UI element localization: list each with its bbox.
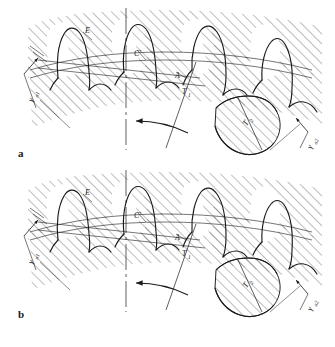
label-point-c-prime-b: C' [134,211,141,220]
panel-letter-a: a [18,147,24,159]
label-point-e-b: E [84,188,90,197]
gear-mesh-drawing: E C' A T 1 T 2 γ a1 γ a2 a [0,0,335,347]
panel-letter-b: b [18,308,24,320]
label-point-a-b: A [174,233,180,242]
label-point-a-a: A [174,71,180,80]
svg-text:T: T [182,87,187,96]
label-point-e-a: E [84,26,90,35]
svg-text:1: 1 [188,92,191,98]
svg-text:T: T [182,249,187,258]
label-point-c-prime-a: C' [134,49,141,58]
svg-text:1: 1 [188,254,191,260]
figure-root: E C' A T 1 T 2 γ a1 γ a2 a [0,0,335,347]
